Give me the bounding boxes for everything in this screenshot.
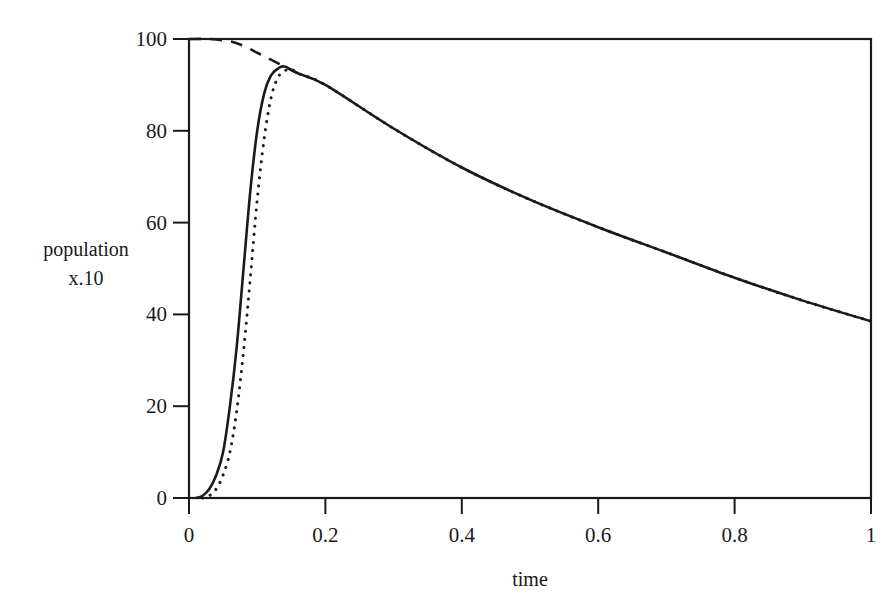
x-tick-label: 0.4 [449, 523, 476, 547]
x-tick-label: 0.2 [312, 523, 338, 547]
x-tick-label: 0 [184, 523, 195, 547]
y-tick-label: 60 [146, 211, 167, 235]
series-lines [189, 39, 871, 498]
y-tick-label: 40 [146, 302, 167, 326]
y-axis-ticks: 020406080100 [136, 27, 190, 510]
x-axis-label: time [512, 568, 548, 590]
x-tick-label: 0.6 [585, 523, 611, 547]
chart: 020406080100 00.20.40.60.81 time populat… [0, 0, 895, 607]
series-solid-line [196, 66, 871, 498]
x-tick-label: 1 [866, 523, 877, 547]
y-tick-label: 80 [146, 119, 167, 143]
axes-box [189, 39, 871, 498]
y-axis-label-line2: x.10 [69, 267, 104, 289]
plot-frame [189, 39, 871, 498]
y-tick-label: 100 [136, 27, 168, 51]
series-dashed-line [189, 39, 298, 74]
y-tick-label: 0 [157, 486, 168, 510]
y-tick-label: 20 [146, 394, 167, 418]
series-dotted-line [203, 69, 871, 498]
y-axis-label-line1: population [43, 238, 129, 261]
x-tick-label: 0.8 [721, 523, 747, 547]
x-axis-ticks: 00.20.40.60.81 [184, 498, 877, 547]
